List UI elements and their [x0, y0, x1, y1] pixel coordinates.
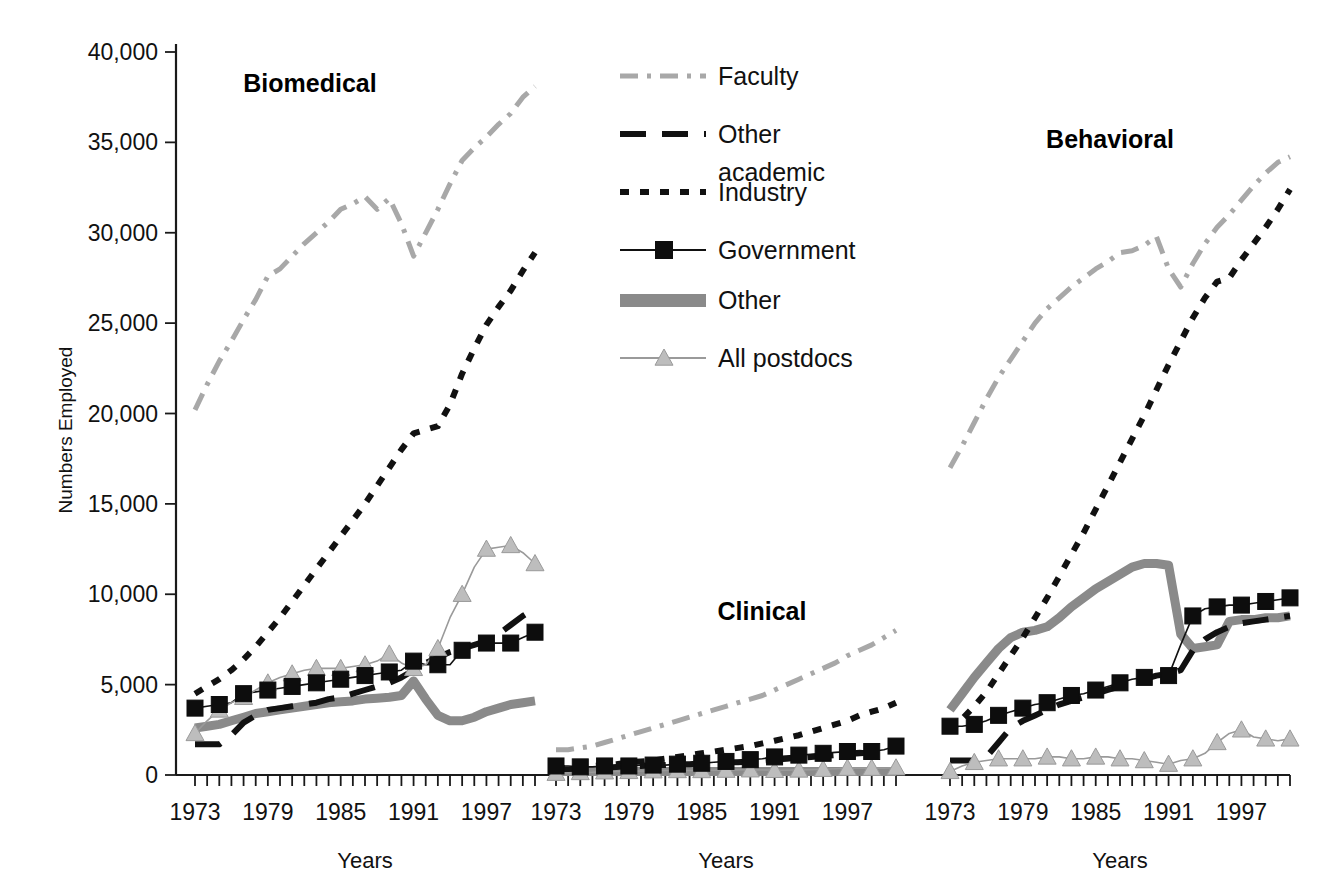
data-point-marker-square — [572, 759, 588, 775]
data-point-marker-square — [1209, 599, 1225, 615]
data-point-marker-square — [621, 758, 637, 774]
data-point-marker-square — [430, 657, 446, 673]
x-axis-tick-label: 1985 — [315, 799, 366, 825]
data-point-marker-triangle — [307, 659, 325, 675]
data-point-marker-triangle — [1208, 733, 1226, 749]
y-axis-title: Numbers Employed — [55, 347, 76, 514]
data-point-marker-square — [1233, 597, 1249, 613]
data-point-marker-square — [1136, 669, 1152, 685]
x-axis-tick-label: 1997 — [461, 799, 512, 825]
data-point-marker-square — [260, 682, 276, 698]
data-point-marker-square — [1112, 675, 1128, 691]
data-point-marker-square — [597, 758, 613, 774]
y-axis-tick-label: 5,000 — [100, 672, 158, 698]
x-axis-tick-label: 1979 — [997, 799, 1048, 825]
panel-title-biomedical: Biomedical — [243, 69, 376, 97]
x-axis-tick-label: 1973 — [530, 799, 581, 825]
chart-figure: 05,00010,00015,00020,00025,00030,00035,0… — [0, 0, 1323, 891]
y-axis-tick-label: 10,000 — [88, 581, 158, 607]
data-point-marker-square — [839, 744, 855, 760]
data-point-marker-square — [991, 707, 1007, 723]
y-axis-tick-label: 30,000 — [88, 220, 158, 246]
legend-label-industry: Industry — [718, 178, 807, 206]
y-axis-tick-label: 20,000 — [88, 401, 158, 427]
data-point-marker-square — [718, 753, 734, 769]
legend-swatch-other — [620, 294, 706, 307]
x-axis-title: Years — [337, 848, 392, 873]
data-point-marker-square — [333, 671, 349, 687]
data-point-marker-square — [669, 756, 685, 772]
data-point-marker-triangle — [1014, 750, 1032, 766]
data-point-marker-square — [527, 624, 543, 640]
data-point-marker-square — [1015, 700, 1031, 716]
data-point-marker-square — [942, 718, 958, 734]
data-point-marker-square — [381, 664, 397, 680]
data-point-marker-square — [503, 635, 519, 651]
legend-marker-square — [655, 241, 673, 259]
y-axis-tick-label: 0 — [145, 762, 158, 788]
data-point-marker-triangle — [453, 585, 471, 601]
panel-title-clinical: Clinical — [718, 597, 807, 625]
data-point-marker-square — [1039, 695, 1055, 711]
x-axis-tick-label: 1979 — [242, 799, 293, 825]
x-axis-tick-label: 1997 — [822, 799, 873, 825]
data-point-marker-triangle — [502, 536, 520, 552]
data-point-marker-square — [1063, 687, 1079, 703]
series-line-faculty — [195, 86, 535, 410]
series-line-industry — [195, 253, 535, 694]
data-point-marker-square — [645, 757, 661, 773]
data-point-marker-triangle — [941, 762, 959, 778]
data-point-marker-square — [236, 686, 252, 702]
x-axis-tick-label: 1973 — [169, 799, 220, 825]
data-point-marker-square — [864, 744, 880, 760]
legend-label-faculty: Faculty — [718, 62, 799, 90]
x-axis-tick-label: 1979 — [603, 799, 654, 825]
data-point-marker-square — [742, 752, 758, 768]
data-point-marker-square — [888, 738, 904, 754]
x-axis-tick-label: 1991 — [388, 799, 439, 825]
x-axis-tick-label: 1973 — [924, 799, 975, 825]
data-point-marker-square — [694, 755, 710, 771]
x-axis-tick-label: 1991 — [1143, 799, 1194, 825]
data-point-marker-square — [406, 653, 422, 669]
y-axis-tick-label: 25,000 — [88, 310, 158, 336]
x-axis-title: Years — [1092, 848, 1147, 873]
data-point-marker-square — [478, 635, 494, 651]
y-axis-tick-label: 35,000 — [88, 129, 158, 155]
data-point-marker-square — [1185, 608, 1201, 624]
data-point-marker-triangle — [429, 639, 447, 655]
data-point-marker-square — [791, 747, 807, 763]
data-point-marker-triangle — [380, 645, 398, 661]
data-point-marker-triangle — [1184, 750, 1202, 766]
series-line-faculty — [556, 630, 896, 749]
y-axis-tick-label: 15,000 — [88, 491, 158, 517]
data-point-marker-square — [308, 675, 324, 691]
data-point-marker-square — [1258, 593, 1274, 609]
chart-svg: 05,00010,00015,00020,00025,00030,00035,0… — [0, 0, 1323, 891]
data-point-marker-triangle — [887, 759, 905, 775]
data-point-marker-triangle — [1232, 721, 1250, 737]
x-axis-tick-label: 1997 — [1216, 799, 1267, 825]
panel-title-behavioral: Behavioral — [1046, 125, 1174, 153]
data-point-marker-square — [454, 642, 470, 658]
data-point-marker-square — [284, 678, 300, 694]
x-axis-title: Years — [698, 848, 753, 873]
data-point-marker-square — [966, 716, 982, 732]
data-point-marker-square — [815, 745, 831, 761]
data-point-marker-triangle — [1281, 730, 1299, 746]
legend-label-other-academic-line1: Other — [718, 120, 781, 148]
y-axis-tick-label: 40,000 — [88, 39, 158, 65]
data-point-marker-square — [767, 749, 783, 765]
data-point-marker-square — [357, 668, 373, 684]
data-point-marker-square — [187, 700, 203, 716]
data-point-marker-square — [1088, 682, 1104, 698]
x-axis-tick-label: 1985 — [1070, 799, 1121, 825]
x-axis-tick-label: 1991 — [749, 799, 800, 825]
data-point-marker-square — [1161, 668, 1177, 684]
data-point-marker-triangle — [1087, 748, 1105, 764]
data-point-marker-square — [548, 758, 564, 774]
series-line-faculty — [950, 157, 1290, 468]
data-point-marker-square — [211, 697, 227, 713]
legend-label-government: Government — [718, 236, 856, 264]
legend-label-other: Other — [718, 286, 781, 314]
